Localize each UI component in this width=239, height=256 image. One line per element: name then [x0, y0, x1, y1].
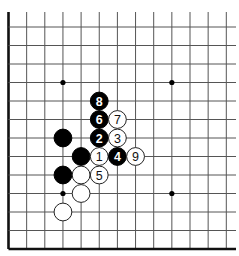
star-point — [60, 191, 65, 196]
move-number-label: 2 — [96, 132, 103, 146]
white-stone — [54, 203, 72, 221]
move-number-label: 7 — [114, 113, 121, 127]
stone-disc — [54, 129, 72, 147]
move-number-label: 6 — [96, 113, 103, 127]
stone-disc — [54, 166, 72, 184]
black-stone — [54, 129, 72, 147]
black-stone-move-4: 4 — [109, 148, 127, 166]
white-stone-move-3: 3 — [109, 129, 127, 147]
stone-disc — [72, 166, 90, 184]
go-board: 123456789 — [0, 0, 239, 256]
stone-disc — [72, 185, 90, 203]
star-point — [169, 80, 174, 85]
stone-disc — [54, 203, 72, 221]
white-stone-move-7: 7 — [109, 111, 127, 129]
stone-disc — [72, 148, 90, 166]
white-stone-move-5: 5 — [90, 166, 108, 184]
move-number-label: 5 — [96, 169, 103, 183]
white-stone — [72, 166, 90, 184]
white-stone-move-1: 1 — [90, 148, 108, 166]
black-stone — [54, 166, 72, 184]
move-number-label: 3 — [114, 132, 121, 146]
white-stone — [72, 185, 90, 203]
move-number-label: 9 — [132, 150, 139, 164]
black-stone-move-6: 6 — [90, 111, 108, 129]
black-stone-move-8: 8 — [90, 92, 108, 110]
black-stone-move-2: 2 — [90, 129, 108, 147]
star-point — [169, 191, 174, 196]
white-stone-move-9: 9 — [127, 148, 145, 166]
move-number-label: 4 — [114, 150, 121, 164]
black-stone — [72, 148, 90, 166]
star-point — [60, 80, 65, 85]
move-number-label: 8 — [96, 95, 103, 109]
move-number-label: 1 — [96, 150, 103, 164]
